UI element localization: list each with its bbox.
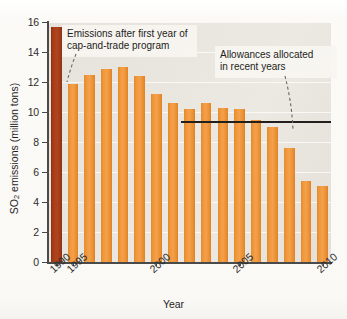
bar	[184, 109, 195, 262]
y-axis-tick	[42, 82, 47, 83]
annotation-leader-allowances	[281, 74, 311, 136]
y-axis-tick	[42, 172, 47, 173]
bar	[234, 109, 245, 262]
annotation-leader-cap-and-trade	[64, 52, 94, 92]
y-axis-line	[47, 21, 49, 263]
y-axis-tick	[42, 232, 47, 233]
y-axis-title-sub: 2	[12, 195, 21, 199]
bar	[84, 75, 95, 263]
y-axis-tick-label: 16	[19, 16, 39, 28]
bar	[251, 120, 262, 263]
y-axis-tick-label: 4	[19, 196, 39, 208]
y-axis-tick	[42, 202, 47, 203]
bar	[218, 108, 229, 263]
gridline	[48, 22, 331, 23]
y-axis-tick-label: 8	[19, 136, 39, 148]
y-axis-title: SO2 emissions (million tons)	[8, 49, 21, 249]
y-axis-tick-label: 12	[19, 76, 39, 88]
bar	[51, 27, 62, 263]
bar	[317, 186, 328, 263]
figure-root: 0246810121416 19901995200020052010 SO2 e…	[0, 0, 347, 319]
y-axis-tick	[42, 52, 47, 53]
y-axis-tick	[42, 262, 47, 263]
y-axis-tick-label: 6	[19, 166, 39, 178]
bar	[201, 103, 212, 262]
bar	[151, 94, 162, 262]
y-axis-title-post: emissions (million tons)	[8, 83, 20, 195]
y-axis-tick-label: 14	[19, 46, 39, 58]
bar	[118, 67, 129, 262]
bar	[267, 127, 278, 262]
y-axis-tick-label: 0	[19, 256, 39, 268]
bar	[101, 69, 112, 263]
y-axis-tick-label: 2	[19, 226, 39, 238]
bar	[68, 84, 79, 263]
bar	[284, 148, 295, 262]
x-axis-line	[47, 262, 332, 264]
bar	[168, 103, 179, 262]
y-axis-title-pre: SO	[8, 199, 20, 214]
annotation-allowances: Allowances allocated in recent years	[215, 46, 337, 78]
x-axis-title: Year	[0, 298, 347, 310]
y-axis-tick-label: 10	[19, 106, 39, 118]
y-axis-tick	[42, 142, 47, 143]
bar	[301, 181, 312, 262]
y-axis-tick	[42, 112, 47, 113]
y-axis-tick	[42, 22, 47, 23]
bar	[134, 76, 145, 262]
